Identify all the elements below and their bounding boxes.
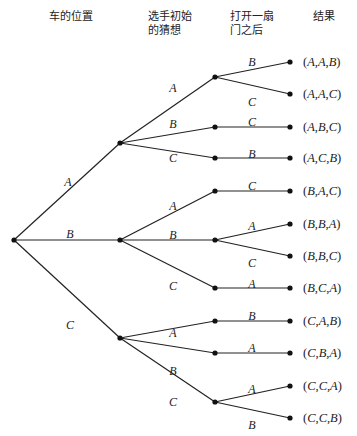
- leaf-node-BBC: [287, 253, 292, 258]
- label-open-BBC: C: [248, 256, 257, 270]
- node-guess-AB: [212, 124, 217, 129]
- label-guess-CC: C: [169, 395, 178, 409]
- node-guess-AC: [212, 155, 217, 160]
- edge-open-AAC: [215, 77, 290, 94]
- result-aac: (A,A,C): [303, 87, 341, 101]
- leaf-node-CBA: [287, 350, 292, 355]
- label-guess-BC: C: [169, 279, 178, 293]
- result-ccb: (C,C,B): [303, 411, 342, 425]
- node-guess-CA: [212, 318, 217, 323]
- edge-open-CCB: [215, 402, 290, 418]
- label-open-ABC: C: [248, 115, 257, 129]
- node-guess-CC: [212, 399, 217, 404]
- result-aab: (A,A,B): [303, 55, 341, 69]
- label-open-BAC: C: [248, 179, 257, 193]
- label-open-AAC: C: [248, 95, 257, 109]
- leaf-node-AAB: [287, 59, 292, 64]
- node-guess-BB: [212, 237, 217, 242]
- result-bac: (B,A,C): [303, 184, 341, 198]
- leaf-node-BAC: [287, 188, 292, 193]
- edge-guess-AB: [120, 127, 215, 143]
- node-guess-CB: [212, 350, 217, 355]
- leaf-node-BBA: [287, 221, 292, 226]
- result-bbc: (B,B,C): [303, 249, 341, 263]
- label-open-BBA: A: [247, 219, 256, 233]
- result-bca: (B,C,A): [303, 281, 341, 295]
- edge-car-A: [14, 143, 120, 240]
- node-guess-BA: [212, 188, 217, 193]
- edge-guess-CC: [120, 338, 215, 402]
- label-open-BCA: A: [247, 277, 256, 291]
- leaf-node-CCA: [287, 383, 292, 388]
- result-cca: (C,C,A): [303, 379, 342, 393]
- label-open-CCA: A: [247, 382, 256, 396]
- result-bba: (B,B,A): [303, 217, 341, 231]
- label-guess-AC: C: [169, 151, 178, 165]
- node-car-B: [117, 237, 122, 242]
- edge-guess-BC: [120, 240, 215, 288]
- edge-guess-CB: [120, 338, 215, 353]
- label-guess-AB: B: [169, 117, 177, 131]
- label-car-A: A: [63, 175, 72, 189]
- root-node: [11, 237, 16, 242]
- label-open-ACB: B: [248, 147, 256, 161]
- node-car-C: [117, 335, 122, 340]
- branch-labels: ABCABCABCABCBCCBCACABAAB: [63, 55, 257, 432]
- leaf-node-ABC: [287, 124, 292, 129]
- label-open-CCB: B: [248, 418, 256, 432]
- node-car-A: [117, 140, 122, 145]
- leaf-node-ACB: [287, 155, 292, 160]
- label-guess-BA: A: [168, 199, 177, 213]
- result-acb: (A,C,B): [303, 151, 341, 165]
- label-open-CBA: A: [247, 341, 256, 355]
- label-open-AAB: B: [248, 55, 256, 69]
- edge-guess-CA: [120, 321, 215, 338]
- leaf-node-CCB: [287, 415, 292, 420]
- label-car-C: C: [66, 318, 75, 332]
- label-guess-BB: B: [169, 228, 177, 242]
- leaf-node-AAC: [287, 91, 292, 96]
- probability-tree: ABCABCABCABCBCCBCACABAAB (A,A,B)(A,A,C)(…: [0, 0, 357, 436]
- leaf-node-CAB: [287, 318, 292, 323]
- result-labels: (A,A,B)(A,A,C)(A,B,C)(A,C,B)(B,A,C)(B,B,…: [303, 55, 342, 425]
- result-cab: (C,A,B): [303, 314, 341, 328]
- edge-guess-AC: [120, 143, 215, 158]
- label-car-B: B: [66, 227, 74, 241]
- result-cba: (C,B,A): [303, 346, 341, 360]
- label-guess-AA: A: [168, 81, 177, 95]
- label-guess-CB: B: [169, 364, 177, 378]
- leaf-node-BCA: [287, 285, 292, 290]
- node-guess-AA: [212, 74, 217, 79]
- result-abc: (A,B,C): [303, 120, 341, 134]
- label-open-CAB: B: [248, 309, 256, 323]
- node-guess-BC: [212, 285, 217, 290]
- edge-guess-BA: [120, 191, 215, 240]
- label-guess-CA: A: [168, 326, 177, 340]
- edge-open-BBC: [215, 240, 290, 256]
- edge-guess-AA: [120, 77, 215, 143]
